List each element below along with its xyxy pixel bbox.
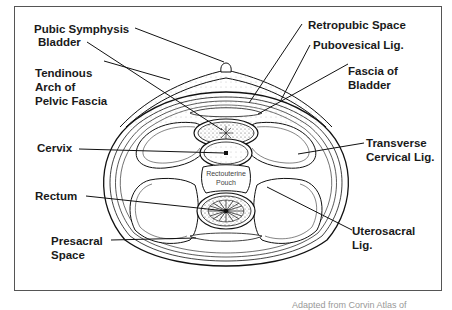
presacral-space-shape bbox=[190, 233, 262, 241]
label-rectum: Rectum bbox=[35, 189, 77, 203]
left-pararectal-space bbox=[130, 178, 198, 243]
label-fascia-of-bladder: Fascia of Bladder bbox=[348, 64, 398, 92]
label-uterosacral-lig: Uterosacral Lig. bbox=[352, 224, 415, 252]
label-tendinous-arch-of-pelvic-fascia: Tendinous Arch of Pelvic Fascia bbox=[35, 66, 107, 108]
label-transverse-cervical-lig: Transverse Cervical Lig. bbox=[366, 136, 434, 164]
label-bladder: Bladder bbox=[38, 35, 81, 49]
label-pubic-symphysis: Pubic Symphysis bbox=[34, 22, 129, 36]
label-presacral-space: Presacral Space bbox=[51, 234, 103, 262]
label-rectouterine-pouch: Rectouterine Pouch bbox=[203, 169, 249, 187]
figure-caption-partial: Adapted from Corvin Atlas of bbox=[292, 300, 407, 310]
label-pubovesical-lig: Pubovesical Lig. bbox=[313, 38, 404, 52]
pubic-symphysis-shape bbox=[221, 63, 231, 72]
label-retropubic-space: Retropubic Space bbox=[308, 18, 406, 32]
right-pararectal-space bbox=[254, 178, 322, 243]
label-cervix: Cervix bbox=[37, 141, 72, 155]
